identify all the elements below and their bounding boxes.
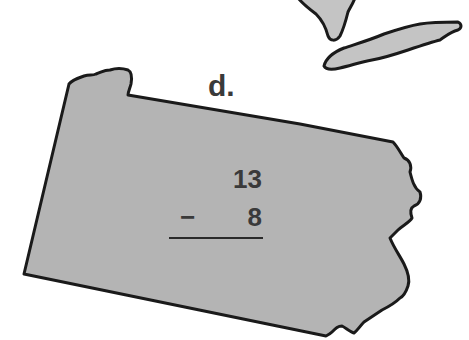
minus-sign: − [180, 203, 195, 231]
lake-huron-shape [296, 0, 356, 40]
subtrahend: 8 [214, 203, 262, 231]
problem-label: d. [208, 70, 235, 102]
minuend: 13 [214, 165, 262, 193]
lake-erie-shape [324, 22, 461, 69]
answer-line [169, 237, 263, 239]
